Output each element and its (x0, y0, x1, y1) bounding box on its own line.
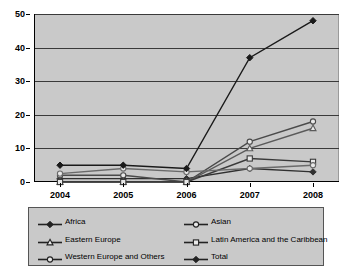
y-tick-label-50: 50 (15, 10, 25, 19)
legend-item-eastern-europe[interactable]: Eastern Europe (37, 233, 121, 245)
line-chart: 01020304050 20042005200620072008 AfricaA… (0, 0, 349, 280)
legend-item-total[interactable]: Total (183, 250, 228, 262)
legend-item-western-europe-and-others[interactable]: Western Europe and Others (37, 250, 164, 262)
legend-marker-open-circle-icon (37, 251, 63, 262)
x-tick-2004 (60, 183, 61, 187)
x-tick-2008 (313, 183, 314, 187)
legend-marker-open-square-icon (183, 234, 209, 245)
x-tick-label-2005: 2005 (113, 190, 133, 200)
y-tick-label-40: 40 (15, 43, 25, 52)
y-tick-10 (26, 148, 30, 149)
x-tick-2005 (123, 183, 124, 187)
y-tick-label-30: 30 (15, 77, 25, 86)
x-tick-label-2006: 2006 (176, 190, 196, 200)
legend-label: Latin America and the Caribbean (211, 235, 328, 244)
plot-area (34, 14, 339, 182)
x-tick-label-2008: 2008 (303, 190, 323, 200)
legend-item-africa[interactable]: Africa (37, 215, 85, 227)
y-tick-40 (26, 48, 30, 49)
y-tick-label-0: 0 (20, 178, 25, 187)
legend-label: Africa (65, 217, 85, 226)
x-axis: 20042005200620072008 (34, 186, 339, 200)
x-tick-2006 (187, 183, 188, 187)
y-axis: 01020304050 (0, 14, 30, 182)
legend-marker-open-triangle-icon (37, 234, 63, 245)
legend-marker-filled-diamond-icon (37, 216, 63, 227)
y-tick-30 (26, 81, 30, 82)
legend-label: Eastern Europe (65, 235, 121, 244)
y-tick-label-10: 10 (15, 144, 25, 153)
y-tick-0 (26, 182, 30, 183)
legend-label: Asian (211, 217, 231, 226)
x-tick-label-2004: 2004 (50, 190, 70, 200)
y-tick-20 (26, 115, 30, 116)
x-tick-label-2007: 2007 (240, 190, 260, 200)
legend-item-asian[interactable]: Asian (183, 215, 231, 227)
chart-legend: AfricaAsianEastern EuropeLatin America a… (28, 207, 324, 266)
legend-marker-filled-diamond-icon (183, 251, 209, 262)
y-tick-50 (26, 14, 30, 15)
legend-marker-open-circle-icon (183, 216, 209, 227)
x-tick-2007 (250, 183, 251, 187)
legend-label: Western Europe and Others (65, 252, 164, 261)
series-layer (34, 14, 339, 182)
y-tick-label-20: 20 (15, 110, 25, 119)
legend-label: Total (211, 252, 228, 261)
series-total (57, 18, 316, 172)
legend-item-latin-america-and-the-caribbean[interactable]: Latin America and the Caribbean (183, 233, 328, 245)
